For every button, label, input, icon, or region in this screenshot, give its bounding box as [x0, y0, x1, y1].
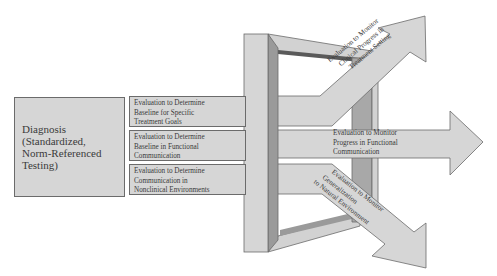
frame-left-post: [244, 34, 268, 252]
determine-line: Baseline in Functional: [134, 143, 205, 153]
diagnosis-box: Diagnosis (Standardized, Norm-Referenced…: [14, 97, 125, 197]
frame-left-post-side: [268, 34, 278, 252]
determine-label: Evaluation to Determine Baseline for Spe…: [134, 99, 205, 128]
monitor-line: Communication: [333, 148, 398, 158]
determine-line: Communication: [134, 152, 205, 162]
determine-label: Evaluation to Determine Communication in…: [134, 167, 210, 196]
determine-line: Evaluation to Determine: [134, 133, 205, 143]
determine-box-nonclinical: Evaluation to Determine Communication in…: [129, 164, 246, 195]
determine-line: Evaluation to Determine: [134, 167, 210, 177]
determine-label: Evaluation to Determine Baseline in Func…: [134, 133, 205, 162]
monitor-line: Progress in Functional: [333, 139, 398, 149]
determine-box-functional-communication: Evaluation to Determine Baseline in Func…: [129, 130, 246, 161]
determine-line: Communication in: [134, 177, 210, 187]
diagnosis-line: Diagnosis: [22, 123, 101, 135]
diagnosis-label: Diagnosis (Standardized, Norm-Referenced…: [22, 123, 101, 171]
determine-line: Baseline for Specific: [134, 109, 205, 119]
determine-line: Evaluation to Determine: [134, 99, 205, 109]
monitor-line: Evaluation to Monitor: [333, 129, 398, 139]
determine-line: Treatment Goals: [134, 118, 205, 128]
determine-box-treatment-goals: Evaluation to Determine Baseline for Spe…: [129, 96, 246, 127]
monitor-label-functional: Evaluation to Monitor Progress in Functi…: [333, 129, 398, 158]
diagnosis-line: Norm-Referenced: [22, 147, 101, 159]
diagnosis-line: Testing): [22, 159, 101, 171]
determine-line: Nonclinical Environments: [134, 186, 210, 196]
diagnosis-line: (Standardized,: [22, 135, 101, 147]
